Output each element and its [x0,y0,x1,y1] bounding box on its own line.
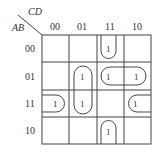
group-loop-row11-right [129,95,152,112]
cell-01-01: 1 [80,72,85,82]
row-variable-label: AB [11,22,24,33]
grid [42,35,151,144]
cell-10-11: 1 [106,127,111,137]
col-label-01: 01 [77,21,87,32]
cell-01-10: 1 [134,72,139,82]
cell-01-11: 1 [106,72,111,82]
column-variable-label: CD [28,6,43,17]
col-label-11: 11 [105,21,115,32]
karnaugh-map: CD AB 00 01 11 10 00 01 11 10 1 1 1 1 1 … [0,0,160,154]
cell-11-10: 1 [133,99,138,109]
cell-11-01: 1 [80,99,85,109]
row-label-01: 01 [25,71,35,82]
col-label-10: 10 [132,21,142,32]
cell-11-00: 1 [53,99,58,109]
col-label-00: 00 [50,21,60,32]
row-label-10: 10 [25,125,35,136]
cell-00-11: 1 [106,44,111,54]
row-label-00: 00 [25,43,35,54]
row-label-11: 11 [25,98,35,109]
